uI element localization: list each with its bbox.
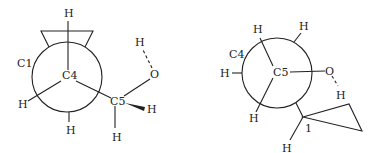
bond-cyclopropyl-h [290, 117, 303, 140]
label-c5: C5 [273, 66, 288, 79]
right-newman-projection: H H C4 H C5 O H H 1 H [220, 20, 362, 153]
label-cyclopropyl-position: 1 [305, 122, 312, 135]
bond-c4-c5 [76, 81, 111, 98]
label-wedge-h: H [147, 103, 157, 116]
label-top-left-h: H [253, 23, 263, 36]
newman-diagram: H C1 C4 H H C5 O H H H H H C4 H C5 [0, 0, 381, 153]
label-c1: C1 [17, 57, 32, 70]
bond-c5-o [290, 71, 325, 72]
label-bottom-h: H [66, 124, 76, 137]
bond-c5-o [124, 79, 150, 96]
label-top-h: H [64, 7, 74, 20]
label-bottom-left-h: H [249, 112, 259, 125]
label-oh-h: H [135, 36, 145, 49]
label-top-right-h: H [299, 20, 309, 33]
wedge-bond-c5-h [125, 103, 145, 111]
label-c4: C4 [229, 48, 244, 61]
label-c4: C4 [62, 69, 77, 82]
label-o: O [325, 65, 334, 78]
label-oh-h: H [336, 89, 346, 102]
cyclopropane-ring-left [41, 31, 93, 47]
bond-rear-cyclopropyl [296, 103, 303, 117]
label-cyclopropyl-h: H [282, 142, 292, 153]
bond-rear-top-right-h [294, 33, 301, 42]
bond-o-h-dashed [143, 50, 152, 68]
label-o: O [150, 68, 159, 81]
left-newman-projection: H C1 C4 H H C5 O H H H [17, 7, 159, 144]
label-left-h: H [220, 67, 230, 80]
bond-c5-top-left-h [260, 38, 273, 66]
label-left-h: H [18, 98, 28, 111]
label-c5: C5 [110, 95, 125, 108]
label-c5-down-h: H [112, 131, 122, 144]
